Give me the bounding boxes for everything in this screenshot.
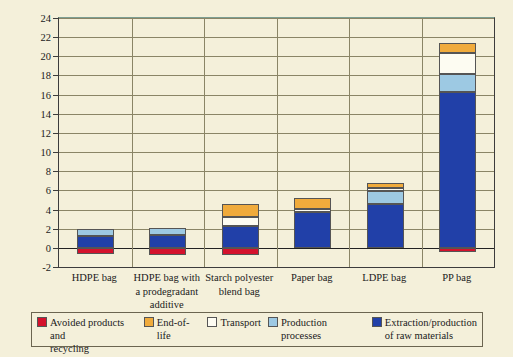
bar-segment — [439, 74, 476, 92]
legend-swatch — [207, 317, 217, 327]
bar-segment — [77, 236, 114, 248]
x-axis-label: LDPE bag — [348, 271, 421, 285]
bar-stack — [367, 18, 404, 267]
bar-segment — [77, 229, 114, 236]
category-separator — [422, 18, 423, 267]
y-axis-tick-label: 10 — [41, 147, 52, 158]
bar-segment — [294, 212, 331, 248]
bar-segment — [367, 188, 404, 190]
legend-label: Production processes — [281, 316, 365, 342]
bar-segment — [149, 235, 186, 247]
bar-segment — [149, 228, 186, 236]
bar-stack — [149, 18, 186, 267]
y-axis-tick-label: 0 — [46, 242, 51, 253]
y-axis-tick — [53, 75, 59, 76]
category-separator — [349, 18, 350, 267]
y-axis-tick — [53, 18, 59, 19]
y-axis-tick-label: 14 — [41, 108, 52, 119]
bar-segment — [222, 226, 259, 248]
bar-segment — [439, 53, 476, 73]
y-axis-tick — [53, 190, 59, 191]
bar-segment — [367, 204, 404, 248]
legend-item: Extraction/production of raw materials — [372, 316, 477, 342]
legend-label: Transport — [220, 316, 260, 329]
y-axis-tick — [53, 248, 59, 249]
y-axis-tick — [53, 133, 59, 134]
y-axis-tick — [53, 95, 59, 96]
y-axis-tick-label: 16 — [41, 89, 52, 100]
x-axis-category-labels: HDPE bagHDPE bag with a prodegradant add… — [58, 271, 495, 313]
y-axis-tick-label: 2 — [46, 223, 51, 234]
x-axis-label: HDPE bag — [58, 271, 131, 285]
bar-segment-negative — [77, 248, 114, 254]
y-axis-tick — [53, 171, 59, 172]
chart-legend: Avoided products and recyclingEnd-of-lif… — [31, 312, 483, 347]
y-axis-tick-label: 12 — [41, 127, 52, 138]
plot-area: 242220181614121086420-2 — [58, 17, 495, 268]
y-axis-tick — [53, 210, 59, 211]
y-axis-tick-label: 24 — [41, 13, 52, 24]
bar-segment-negative — [222, 248, 259, 255]
bar-segment — [367, 191, 404, 204]
y-axis-tick-label: 20 — [41, 51, 52, 62]
bar-stack — [294, 18, 331, 267]
y-axis-tick — [53, 37, 59, 38]
y-axis-tick — [53, 267, 59, 268]
bar-segment — [439, 43, 476, 54]
figure-stacked-bar-chart: Global warming potential (kg CO2 eq.) 24… — [0, 0, 513, 357]
x-axis-label: HDPE bag with a prodegradant additive — [131, 271, 204, 312]
bar-segment — [222, 217, 259, 227]
legend-label: Extraction/production of raw materials — [385, 316, 477, 342]
category-separator — [277, 18, 278, 267]
y-axis-tick-label: -2 — [42, 262, 51, 273]
legend-item: Transport — [207, 316, 260, 329]
bar-segment — [294, 209, 331, 212]
bar-segment — [294, 198, 331, 209]
y-axis-tick-label: 6 — [46, 185, 51, 196]
legend-item: Production processes — [268, 316, 365, 342]
legend-swatch — [37, 317, 47, 327]
y-axis-tick — [53, 114, 59, 115]
y-axis-tick — [53, 229, 59, 230]
bar-stack — [222, 18, 259, 267]
bar-segment — [367, 183, 404, 188]
category-separator — [132, 18, 133, 267]
y-axis-tick-label: 22 — [41, 32, 52, 43]
legend-label: End-of-life — [157, 316, 201, 342]
y-axis-tick-label: 4 — [46, 204, 51, 215]
category-separator — [204, 18, 205, 267]
bar-segment-negative — [149, 248, 186, 255]
legend-swatch — [372, 317, 382, 327]
legend-item: Avoided products and recycling — [37, 316, 137, 355]
bar-stack — [77, 18, 114, 267]
y-axis-tick — [53, 56, 59, 57]
legend-swatch — [268, 317, 278, 327]
bar-segment-negative — [439, 248, 476, 252]
x-axis-label: PP bag — [421, 271, 494, 285]
y-axis-tick — [53, 152, 59, 153]
bar-stack — [439, 18, 476, 267]
x-axis-label: Paper bag — [276, 271, 349, 285]
bar-segment — [439, 92, 476, 248]
x-axis-label: Starch polyester blend bag — [203, 271, 276, 298]
y-axis-tick-label: 8 — [46, 166, 51, 177]
bar-segment — [222, 204, 259, 217]
legend-label: Avoided products and recycling — [50, 316, 137, 355]
legend-item: End-of-life — [144, 316, 201, 342]
y-axis-tick-label: 18 — [41, 70, 52, 81]
legend-swatch — [144, 317, 154, 327]
